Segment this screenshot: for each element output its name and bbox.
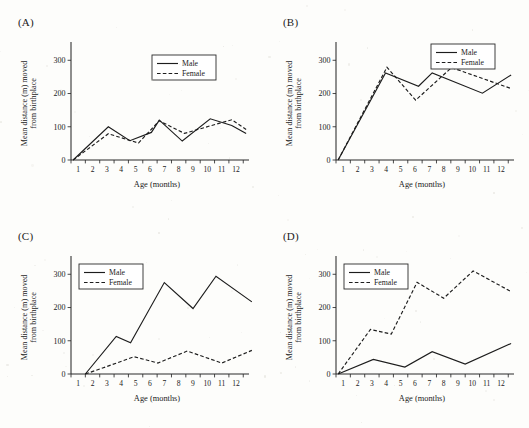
scan-speck: [181, 90, 182, 91]
svg-text:7: 7: [427, 165, 431, 174]
svg-text:Male: Male: [109, 268, 126, 277]
figure-panel-grid: (A) Mean distance (m) movedfrom birthpla…: [0, 0, 529, 428]
svg-text:11: 11: [483, 379, 491, 388]
scan-speck: [268, 56, 270, 58]
scan-speck: [350, 349, 351, 350]
scan-speck: [376, 256, 378, 258]
svg-text:10: 10: [204, 165, 212, 174]
svg-text:0: 0: [327, 370, 331, 379]
svg-text:12: 12: [497, 379, 505, 388]
svg-text:10: 10: [469, 379, 477, 388]
scan-speck: [130, 146, 131, 147]
scan-speck: [252, 186, 254, 188]
scan-speck: [472, 29, 473, 30]
svg-text:Male: Male: [461, 48, 478, 57]
svg-text:0: 0: [62, 156, 66, 165]
svg-text:9: 9: [456, 379, 460, 388]
svg-text:3: 3: [370, 379, 374, 388]
scan-speck: [208, 143, 209, 144]
svg-text:Female: Female: [461, 58, 484, 67]
svg-text:7: 7: [162, 379, 166, 388]
svg-text:1: 1: [341, 379, 345, 388]
svg-text:300: 300: [319, 270, 331, 279]
svg-text:6: 6: [148, 379, 152, 388]
scan-speck: [223, 46, 224, 47]
svg-text:2: 2: [356, 165, 360, 174]
svg-text:4: 4: [119, 379, 123, 388]
scan-speck: [158, 338, 159, 339]
svg-text:3: 3: [105, 379, 109, 388]
svg-text:5: 5: [134, 379, 138, 388]
scan-speck: [89, 136, 90, 137]
svg-text:200: 200: [319, 89, 331, 98]
svg-text:8: 8: [177, 165, 181, 174]
panel-d: (D) Mean distance (m) movedfrom birthpla…: [265, 214, 529, 428]
svg-text:1: 1: [341, 165, 345, 174]
svg-text:4: 4: [119, 165, 123, 174]
svg-text:Female: Female: [109, 278, 132, 287]
svg-text:9: 9: [456, 165, 460, 174]
svg-text:100: 100: [54, 123, 66, 132]
panel-a: (A) Mean distance (m) movedfrom birthpla…: [0, 0, 265, 214]
scan-speck: [412, 396, 414, 398]
svg-text:100: 100: [319, 123, 331, 132]
scan-speck: [155, 361, 156, 362]
svg-text:12: 12: [232, 165, 240, 174]
scan-speck: [92, 354, 93, 355]
legend: MaleFemale: [431, 44, 495, 69]
scan-speck: [304, 102, 305, 103]
panel-a-plot: 0100200300123456789101112MaleFemale: [0, 0, 265, 214]
svg-text:100: 100: [54, 337, 66, 346]
svg-text:1: 1: [76, 165, 80, 174]
svg-text:8: 8: [442, 379, 446, 388]
scan-speck: [187, 307, 189, 309]
svg-text:200: 200: [319, 303, 331, 312]
scan-speck: [280, 372, 282, 374]
svg-text:0: 0: [62, 370, 66, 379]
svg-text:Female: Female: [182, 69, 205, 78]
svg-text:11: 11: [218, 165, 226, 174]
svg-text:4: 4: [384, 165, 388, 174]
svg-text:7: 7: [427, 379, 431, 388]
scan-speck: [0, 121, 2, 123]
scan-speck: [528, 90, 529, 91]
svg-text:5: 5: [399, 165, 403, 174]
scan-speck: [44, 259, 46, 261]
svg-text:1: 1: [76, 379, 80, 388]
scan-speck: [420, 321, 421, 322]
scan-speck: [317, 249, 318, 250]
scan-speck: [22, 93, 23, 94]
panel-b: (B) Mean distance (m) movedfrom birthpla…: [265, 0, 529, 214]
svg-text:300: 300: [54, 56, 66, 65]
scan-speck: [63, 352, 65, 354]
scan-speck: [151, 79, 153, 81]
scan-speck: [367, 47, 368, 48]
svg-text:2: 2: [91, 165, 95, 174]
svg-text:0: 0: [327, 156, 331, 165]
svg-text:6: 6: [148, 165, 152, 174]
svg-text:7: 7: [162, 165, 166, 174]
svg-text:2: 2: [91, 379, 95, 388]
svg-text:2: 2: [356, 379, 360, 388]
scan-speck: [493, 192, 495, 194]
svg-text:300: 300: [54, 270, 66, 279]
svg-text:3: 3: [105, 165, 109, 174]
panel-b-plot: 0100200300123456789101112MaleFemale: [265, 0, 529, 214]
scan-speck: [361, 422, 362, 423]
scan-speck: [6, 364, 8, 366]
scan-speck: [305, 254, 306, 255]
svg-text:8: 8: [177, 379, 181, 388]
svg-text:6: 6: [413, 165, 417, 174]
svg-text:5: 5: [134, 165, 138, 174]
svg-text:300: 300: [319, 56, 331, 65]
svg-text:4: 4: [384, 379, 388, 388]
svg-text:10: 10: [204, 379, 212, 388]
scan-speck: [522, 134, 523, 135]
svg-text:11: 11: [218, 379, 226, 388]
panel-c: (C) Mean distance (m) movedfrom birthpla…: [0, 214, 265, 428]
panel-c-plot: 0100200300123456789101112MaleFemale: [0, 214, 265, 428]
svg-text:11: 11: [483, 165, 491, 174]
svg-text:12: 12: [497, 165, 505, 174]
legend: MaleFemale: [344, 264, 408, 289]
scan-speck: [521, 227, 523, 229]
